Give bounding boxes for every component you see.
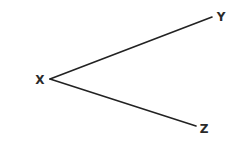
vertex-label-x: X <box>35 73 45 87</box>
angle-diagram: X Y Z <box>0 0 230 143</box>
point-label-y: Y <box>216 10 226 24</box>
point-label-z: Z <box>200 122 209 136</box>
ray-xy <box>50 17 212 79</box>
ray-xz <box>50 79 196 126</box>
